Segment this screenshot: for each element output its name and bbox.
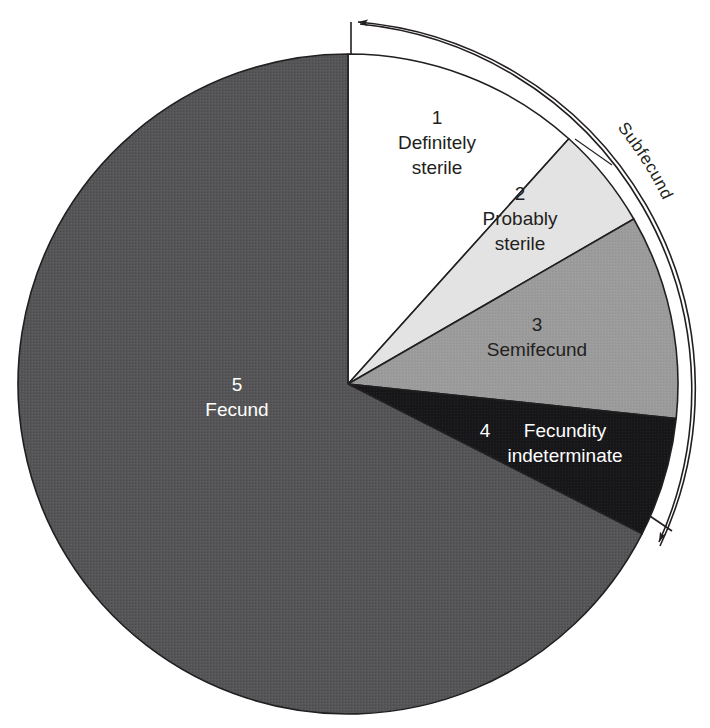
- slice-number-5: 5: [232, 374, 243, 395]
- slice-text-1-2: sterile: [412, 157, 463, 178]
- slice-number-4: 4: [480, 420, 491, 441]
- slice-text-2-2: sterile: [495, 233, 546, 254]
- pie-chart-figure: Subfecund 1Definitelysterile2Probablyste…: [0, 0, 710, 728]
- slice-text-4-1: Fecundity: [524, 420, 607, 441]
- slice-number-3: 3: [532, 314, 543, 335]
- slice-text-3-1: Semifecund: [487, 339, 587, 360]
- slice-text-5-1: Fecund: [205, 399, 268, 420]
- pie-slices-group: [18, 54, 678, 714]
- bracket-label: Subfecund: [614, 118, 677, 202]
- slice-text-4-2: indeterminate: [507, 445, 622, 466]
- slice-text-1-1: Definitely: [398, 132, 477, 153]
- pie-chart-svg: Subfecund 1Definitelysterile2Probablyste…: [0, 0, 710, 728]
- slice-number-2: 2: [515, 183, 526, 204]
- slice-number-1: 1: [432, 107, 443, 128]
- slice-text-2-1: Probably: [483, 208, 558, 229]
